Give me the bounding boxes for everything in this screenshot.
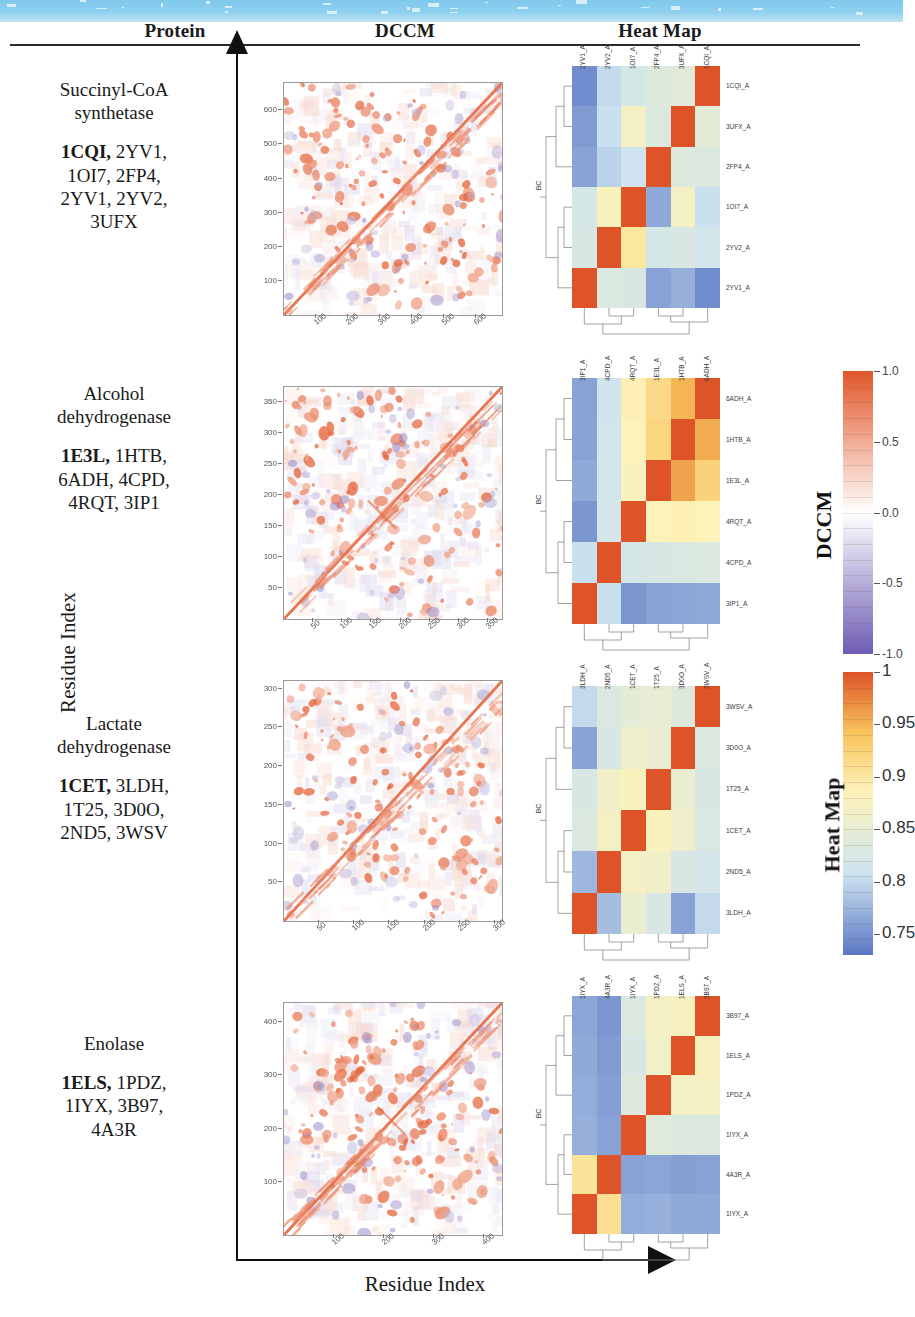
heatmap-cell — [646, 851, 671, 892]
heatmap-cell — [695, 147, 720, 187]
heatmap-row-label: 1ELS_A — [726, 1052, 750, 1059]
pdb-code-line: 1IYX, 3B97, — [6, 1094, 222, 1117]
heatmap-cell — [646, 542, 671, 583]
banner-fleck — [381, 11, 388, 15]
heatmap-cell — [621, 268, 646, 308]
heatmap-grid — [572, 996, 720, 1234]
dccm-y-ticklabel: 100 — [253, 552, 277, 561]
heatmap-col-label: 1HTB_A — [678, 356, 685, 381]
heatmap-cell — [695, 1155, 720, 1195]
dccm-y-tickmark — [278, 1021, 282, 1022]
heatmap-cell — [695, 583, 720, 624]
heatmap-cell — [646, 501, 671, 542]
dccm-y-ticklabel: 50 — [253, 877, 277, 886]
pdb-code-list: 1CET, 3LDH, 1T25, 3D0O,2ND5, 3WSV — [6, 774, 222, 844]
banner-fleck — [671, 6, 680, 10]
colorbar-tickmark — [874, 672, 880, 673]
colorbar-tickmark — [874, 371, 880, 372]
heatmap-col-label: 1T25_A — [653, 666, 660, 689]
heatmap-cell — [671, 769, 696, 810]
heatmap-cell — [572, 501, 597, 542]
heatmap-col-label: 4CPD_A — [604, 356, 611, 381]
banner-fleck — [7, 4, 16, 7]
pdb-code-reference: 1CQI, — [61, 141, 111, 162]
heatmap-row-label: 1IYX_A — [726, 1210, 748, 1217]
heatmap-col-label: 1CET_A — [629, 664, 636, 689]
colorbar-tickmark — [874, 777, 880, 778]
heatmap-cell — [572, 542, 597, 583]
colorbar-tickmark — [874, 442, 880, 443]
heatmap-cell — [621, 501, 646, 542]
protein-name: Enolase — [6, 1032, 222, 1055]
heatmap-cell — [695, 893, 720, 934]
pdb-code-list: 1CQI, 2YV1, 1OI7, 2FP4,2YV1, 2YV2,3UFX — [6, 140, 222, 233]
heatmap-cell — [695, 268, 720, 308]
heatmap-cell — [671, 66, 696, 106]
banner-fleck — [718, 8, 721, 11]
heatmap-cell — [695, 66, 720, 106]
heatmap-cell — [646, 1194, 671, 1234]
heatmap-col-label: 4RQT_A — [629, 356, 636, 381]
heatmap-cell — [621, 851, 646, 892]
dccm-y-ticklabel: 200 — [253, 242, 277, 251]
dccm-y-ticklabel: 300 — [253, 208, 277, 217]
heatmap-cell — [621, 227, 646, 267]
heatmap-cell — [597, 378, 622, 419]
heatmap-cell — [695, 501, 720, 542]
heatmap-col-dendrogram — [572, 1234, 720, 1268]
heatmap-cell — [646, 1115, 671, 1155]
heatmap-cell — [695, 460, 720, 501]
heatmap-cell — [597, 460, 622, 501]
dccm-canvas — [284, 681, 502, 921]
dccm-y-tickmark — [278, 109, 282, 110]
top-banner — [0, 0, 903, 22]
heatmap-row-label: 2ND5_A — [726, 868, 751, 875]
dccm-y-tickmark — [278, 765, 282, 766]
heatmap-row-dendrogram — [538, 686, 572, 934]
heatmap-colorbar-title: Heat Map — [819, 778, 845, 873]
heatmap-cell — [597, 686, 622, 727]
heatmap-cell — [646, 996, 671, 1036]
heatmap-cell — [597, 1155, 622, 1195]
colorbar-tickmark — [874, 882, 880, 883]
heatmap-row-dendrogram — [538, 66, 572, 308]
pdb-code-reference: 1E3L, — [61, 445, 110, 466]
heatmap-row-label: 3LDH_A — [726, 909, 751, 916]
column-headers: Protein DCCM Heat Map — [0, 20, 903, 46]
pdb-code-line: 1CQI, 2YV1, — [6, 140, 222, 163]
heatmap-row-label: 4CPD_A — [726, 559, 751, 566]
heatmap-cell — [572, 893, 597, 934]
heatmap-row-label: 3WSV_A — [726, 703, 752, 710]
banner-fleck — [831, 7, 834, 8]
pdb-code-list: 1E3L, 1HTB, 6ADH, 4CPD,4RQT, 3IP1 — [6, 444, 222, 514]
dccm-y-tickmark — [278, 212, 282, 213]
heatmap-col-label: 1OI7_A — [629, 47, 636, 69]
heatmap-cell — [572, 1194, 597, 1234]
dccm-y-tickmark — [278, 587, 282, 588]
colorbar-tickmark — [874, 654, 880, 655]
pdb-code-line: 3UFX — [6, 210, 222, 233]
heatmap-cell — [671, 147, 696, 187]
heatmap-row-label: 1HTB_A — [726, 436, 751, 443]
heatmap-cell — [597, 893, 622, 934]
dccm-y-ticklabel: 500 — [253, 139, 277, 148]
heatmap-cell — [671, 851, 696, 892]
heatmap-cell — [597, 147, 622, 187]
heatmap-cell — [646, 1075, 671, 1115]
heatmap-cell — [695, 1194, 720, 1234]
heatmap-cell — [646, 460, 671, 501]
heatmap-cell — [597, 542, 622, 583]
dccm-x-ticklabel: 50 — [315, 920, 328, 933]
column-header-dccm: DCCM — [290, 20, 520, 42]
heatmap-cell — [671, 1115, 696, 1155]
heatmap-cell — [646, 1036, 671, 1076]
heatmap-cell — [572, 769, 597, 810]
heatmap-grid — [572, 66, 720, 308]
banner-fleck — [856, 12, 864, 15]
heatmap-row-label: 3UFX_A — [726, 123, 751, 130]
heatmap-cell — [597, 66, 622, 106]
pdb-code-line: 1ELS, 1PDZ, — [6, 1071, 222, 1094]
header-rule — [10, 44, 860, 46]
pdb-code-reference: 1ELS, — [61, 1072, 111, 1093]
pdb-code-reference: 1CET, — [59, 775, 111, 796]
